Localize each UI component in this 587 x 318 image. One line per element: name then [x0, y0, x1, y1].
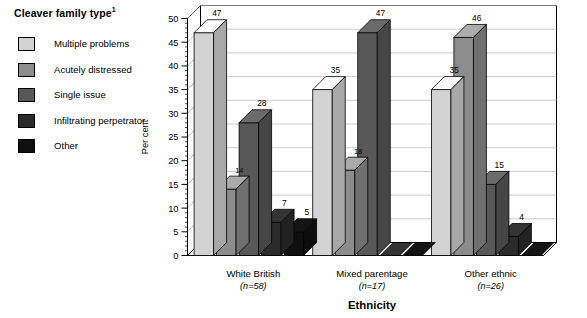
x-axis-category-count: (n=58): [240, 281, 267, 291]
x-axis-category-count: (n=26): [477, 281, 504, 291]
x-axis-title: Ethnicity: [348, 299, 397, 311]
chart-svg: 05101520253035404550Per cent415463547183…: [0, 0, 587, 318]
bar-side-face: [259, 110, 272, 256]
chart-figure: Cleaver family type1 Multiple problemsAc…: [0, 0, 587, 318]
bar-value-label: 47: [376, 8, 386, 18]
bar-value-label: 5: [304, 207, 309, 217]
y-axis-tick-label: 20: [168, 156, 178, 166]
bar-value-label: 18: [354, 147, 362, 156]
y-axis-tick-label: 50: [168, 14, 178, 24]
y-axis-tick-label: 40: [168, 61, 178, 71]
x-axis-category-label: Other ethnic: [465, 268, 517, 279]
x-axis-category-label: Mixed parentage: [336, 268, 407, 279]
bar-value-label: 4: [519, 212, 524, 222]
bar-value-label: 28: [257, 98, 267, 108]
bar-value-label: 14: [235, 166, 243, 175]
x-axis-categories: White British(n=58)Mixed parentage(n=17)…: [226, 268, 517, 291]
bar-side-face: [377, 20, 390, 256]
bar-side-face: [236, 176, 249, 255]
bar-side-face: [214, 20, 227, 256]
x-axis-category-count: (n=17): [359, 281, 386, 291]
bar-value-label: 15: [495, 160, 505, 170]
y-axis-tick-label: 35: [168, 85, 178, 95]
x-axis-category-label: White British: [226, 268, 280, 279]
bar-side-face: [332, 77, 345, 256]
y-axis-tick-label: 10: [168, 204, 178, 214]
bar-side-face: [473, 24, 486, 255]
y-axis-tick-label: 45: [168, 38, 178, 48]
y-axis-tick-label: 5: [173, 227, 178, 237]
bar-side-face: [355, 157, 368, 255]
bar-side-face: [496, 171, 509, 255]
bar-value-label: 35: [331, 65, 341, 75]
bar-value-label: 47: [212, 8, 222, 18]
y-axis-title: Per cent: [140, 119, 150, 154]
y-axis-tick-label: 15: [168, 180, 178, 190]
bar-front-face: [194, 33, 214, 256]
y-axis: 05101520253035404550: [168, 14, 187, 261]
bar-front-face: [431, 90, 451, 256]
y-axis-tick-label: 0: [173, 251, 178, 261]
bar-value-label: 7: [282, 198, 287, 208]
y-axis-tick-label: 30: [168, 109, 178, 119]
y-axis-tick-label: 25: [168, 132, 178, 142]
bar-side-face: [451, 77, 464, 256]
chart-plot-area: 05101520253035404550Per cent415463547183…: [0, 0, 587, 318]
bar-value-label: 46: [472, 13, 482, 23]
bar-value-label: 35: [450, 65, 460, 75]
